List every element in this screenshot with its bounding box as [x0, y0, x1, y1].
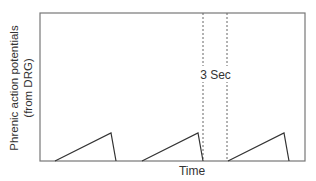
interval-annotation: 3 Sec [200, 68, 231, 82]
burst-2 [142, 133, 203, 161]
chart-svg: 3 Sec Time Phrenic action potentials (fr… [0, 0, 316, 181]
burst-3 [228, 133, 289, 161]
x-axis-label: Time [179, 164, 206, 178]
plot-frame [40, 13, 305, 161]
y-axis-label-line-1: Phrenic action potentials [8, 25, 20, 151]
burst-1 [55, 133, 116, 161]
y-axis-label-line-2: (from DRG) [22, 58, 34, 118]
